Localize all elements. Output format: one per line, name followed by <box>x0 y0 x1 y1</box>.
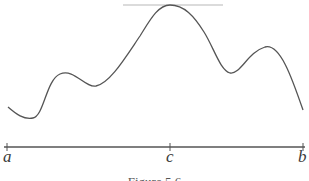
function-curve <box>8 5 303 118</box>
label-a: a <box>3 148 12 165</box>
figure-caption: Figure 5.6 <box>0 175 309 181</box>
figure-graphic <box>0 0 309 181</box>
label-b: b <box>298 148 307 165</box>
label-c: c <box>166 148 174 165</box>
function-maximum-figure: a c b Figure 5.6 <box>0 0 309 181</box>
